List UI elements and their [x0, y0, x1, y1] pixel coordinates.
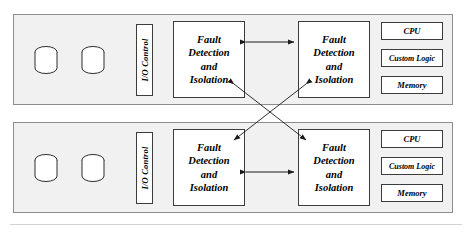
fdi-module-left: Fault Detection and Isolation	[173, 21, 245, 98]
storage-disk-icon	[80, 45, 106, 75]
node-panel-bottom: I/O Control Fault Detection and Isolatio…	[13, 122, 453, 213]
storage-disk-icon	[33, 153, 59, 183]
fdi-module-right: Fault Detection and Isolation	[298, 21, 370, 98]
component-memory: Memory	[381, 76, 443, 94]
fdi-line: and	[326, 60, 342, 73]
fdi-line: and	[201, 168, 217, 181]
component-label: CPU	[404, 134, 421, 144]
component-cpu: CPU	[381, 130, 443, 148]
fdi-module-right: Fault Detection and Isolation	[298, 129, 370, 206]
fdi-line: Detection	[188, 154, 229, 167]
fdi-line: Detection	[188, 46, 229, 59]
component-label: CPU	[404, 26, 421, 36]
fdi-line: Isolation	[315, 181, 354, 194]
fdi-line: Fault	[322, 141, 346, 154]
page-rule	[10, 224, 462, 225]
fdi-line: Isolation	[190, 181, 229, 194]
fdi-line: Fault	[197, 33, 221, 46]
component-label: Memory	[397, 188, 426, 198]
fdi-line: and	[326, 168, 342, 181]
fdi-line: Detection	[313, 46, 354, 59]
diagram-canvas: I/O Control Fault Detection and Isolatio…	[0, 0, 467, 233]
fdi-line: Fault	[322, 33, 346, 46]
node-panel-top: I/O Control Fault Detection and Isolatio…	[13, 14, 453, 105]
fdi-line: Isolation	[190, 73, 229, 86]
fdi-line: and	[201, 60, 217, 73]
component-custom-logic: Custom Logic	[381, 157, 443, 175]
io-control-box: I/O Control	[136, 132, 153, 204]
component-label: Memory	[397, 80, 426, 90]
storage-disk-icon	[80, 153, 106, 183]
fdi-module-left: Fault Detection and Isolation	[173, 129, 245, 206]
component-custom-logic: Custom Logic	[381, 49, 443, 67]
io-control-label: I/O Control	[140, 146, 150, 189]
component-label: Custom Logic	[389, 54, 435, 63]
storage-disk-icon	[33, 45, 59, 75]
component-label: Custom Logic	[389, 162, 435, 171]
fdi-line: Isolation	[315, 73, 354, 86]
component-memory: Memory	[381, 184, 443, 202]
io-control-label: I/O Control	[140, 38, 150, 81]
io-control-box: I/O Control	[136, 24, 153, 96]
fdi-line: Fault	[197, 141, 221, 154]
component-cpu: CPU	[381, 22, 443, 40]
fdi-line: Detection	[313, 154, 354, 167]
